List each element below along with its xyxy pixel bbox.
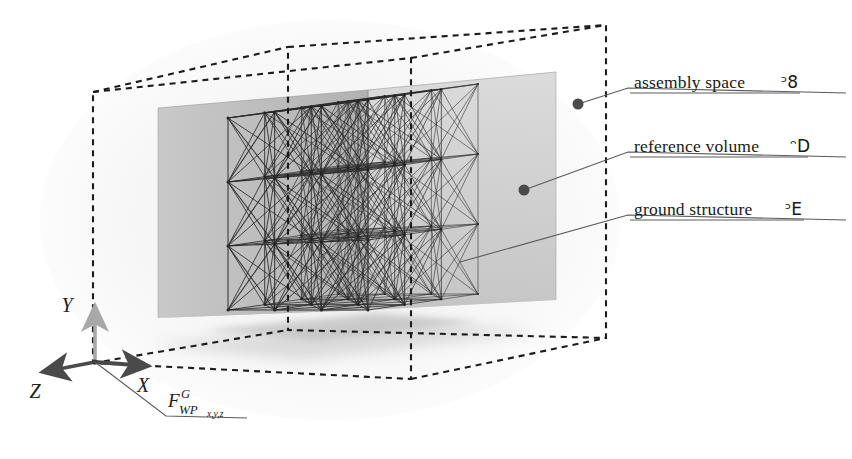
diagram-canvas: X Y Z F G WP x,y,z assembly space ᵓ8	[0, 0, 852, 459]
technical-diagram-figure: X Y Z F G WP x,y,z assembly space ᵓ8	[0, 0, 852, 459]
